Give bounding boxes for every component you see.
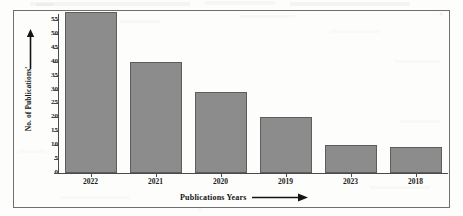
- y-axis-title-text: No. of Publications': [24, 67, 33, 132]
- x-axis-ticks: 202220212020201920232018: [0, 0, 463, 216]
- x-axis-tick-label: 2019: [266, 177, 306, 186]
- x-axis-tick-label: 2022: [71, 177, 111, 186]
- x-axis-tick-label: 2021: [136, 177, 176, 186]
- x-axis-tick-label: 2023: [331, 177, 371, 186]
- y-axis-title: No. of Publications': [17, 49, 31, 149]
- x-axis-title: Publications Years: [180, 190, 370, 204]
- x-axis-tick-label: 2018: [396, 177, 436, 186]
- x-axis-arrow-icon: [252, 193, 308, 202]
- x-axis-tick-label: 2020: [201, 177, 241, 186]
- chart-page: 0510152025303540455055 20222021202020192…: [0, 0, 463, 216]
- x-axis-title-text: Publications Years: [180, 193, 247, 202]
